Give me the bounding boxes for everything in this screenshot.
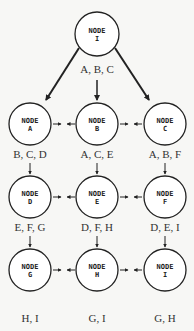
node-d: NODE D — [9, 176, 51, 218]
svg-text:NODE: NODE — [89, 190, 106, 198]
node-b-label: A, C, E — [81, 148, 114, 160]
node-f-label: D, E, I — [150, 221, 180, 233]
svg-text:NODE: NODE — [157, 117, 174, 125]
node-h-label: G, I — [88, 312, 105, 324]
svg-text:NODE: NODE — [157, 190, 174, 198]
node-e: NODE E — [76, 176, 118, 218]
node-a: NODE A — [9, 103, 51, 145]
svg-text:G: G — [28, 271, 32, 279]
svg-text:B: B — [95, 125, 99, 133]
svg-text:NODE: NODE — [157, 263, 174, 271]
svg-text:NODE: NODE — [89, 117, 106, 125]
svg-text:I: I — [163, 271, 167, 279]
node-g-label: H, I — [21, 312, 38, 324]
node-c-label: A, B, F — [149, 148, 181, 160]
node-d-label: E, F, G — [15, 221, 46, 233]
svg-text:H: H — [95, 271, 99, 279]
node-a-label: B, C, D — [13, 148, 47, 160]
svg-text:NODE: NODE — [22, 190, 39, 198]
svg-text:NODE: NODE — [89, 263, 106, 271]
svg-text:D: D — [28, 198, 32, 206]
node-f: NODE F — [144, 176, 186, 218]
svg-text:C: C — [163, 125, 167, 133]
arrow-top-to-c — [115, 48, 149, 100]
svg-text:NODE: NODE — [89, 27, 106, 35]
node-e-label: D, F, H — [81, 221, 113, 233]
node-i-label: G, H — [154, 312, 175, 324]
node-g: NODE G — [9, 249, 51, 291]
svg-text:NODE: NODE — [22, 263, 39, 271]
top-node-label: A, B, C — [80, 63, 114, 75]
node-diagram: NODE I A, B, C NODE A B, C, D NODE B — [0, 0, 194, 331]
svg-text:E: E — [95, 198, 99, 206]
node-top: NODE I — [75, 12, 119, 56]
arrow-top-to-a — [46, 48, 79, 100]
node-c: NODE C — [144, 103, 186, 145]
node-i: NODE I — [144, 249, 186, 291]
svg-text:F: F — [163, 198, 167, 206]
node-b: NODE B — [76, 103, 118, 145]
svg-text:I: I — [95, 35, 99, 43]
svg-text:NODE: NODE — [22, 117, 39, 125]
node-h: NODE H — [76, 249, 118, 291]
